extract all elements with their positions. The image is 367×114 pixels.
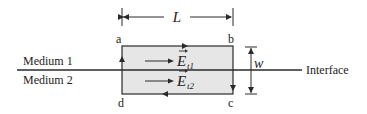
length-label: L [172,9,181,25]
width-label: w [254,56,264,71]
dimension-arrow-down-icon [248,87,254,93]
corner-label-c: c [228,96,233,110]
svg-text:t2: t2 [187,81,195,91]
boundary-condition-diagram: L w a b d c Medium 1 Medium 2 Interface … [0,0,367,114]
dimension-arrow-right-icon [226,14,232,20]
svg-text:t1: t1 [187,61,194,71]
interface-label: Interface [306,63,349,77]
medium-1-label: Medium 1 [23,54,73,68]
dimension-arrow-left-icon [123,14,129,20]
svg-text:E: E [176,73,186,89]
corner-label-a: a [116,32,122,46]
corner-label-d: d [118,96,124,110]
medium-2-label: Medium 2 [23,73,73,87]
corner-label-b: b [228,32,234,46]
svg-text:E: E [176,53,186,69]
dimension-arrow-up-icon [248,48,254,54]
